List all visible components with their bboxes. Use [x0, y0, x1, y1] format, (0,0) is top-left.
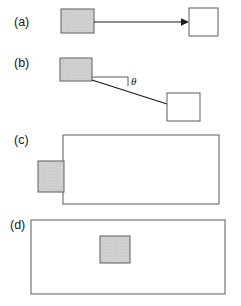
- panel-a-white-square: [189, 8, 218, 36]
- figure-container: (a) (b) θ (c) (d): [0, 0, 241, 306]
- panel-d-label: (d): [10, 218, 25, 232]
- panel-b-white-square: [167, 93, 200, 121]
- panel-b: (b) θ: [14, 56, 200, 121]
- panel-c-large-rectangle: [63, 135, 219, 204]
- panel-c: (c): [14, 133, 219, 204]
- panel-a-label: (a): [14, 15, 29, 29]
- panel-c-label: (c): [14, 133, 29, 147]
- panel-d-gray-square: [100, 236, 130, 263]
- panel-b-gray-square: [60, 58, 92, 81]
- diagram-canvas: (a) (b) θ (c) (d): [0, 0, 241, 306]
- panel-a-gray-square: [61, 9, 94, 33]
- panel-b-sloped-line: [92, 80, 167, 104]
- panel-a: (a): [14, 8, 218, 36]
- panel-c-gray-square: [38, 161, 64, 192]
- panel-b-theta-label: θ: [131, 75, 137, 87]
- panel-a-arrow-head: [181, 18, 189, 25]
- panel-d: (d): [10, 218, 225, 294]
- panel-b-label: (b): [14, 56, 29, 70]
